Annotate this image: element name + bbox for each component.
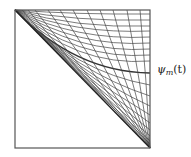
family-b-curve bbox=[48, 10, 150, 148]
family-a-curve bbox=[15, 10, 150, 62]
curve-family-figure bbox=[0, 0, 191, 157]
diagonal-boundary bbox=[15, 10, 150, 148]
psi-symbol: ψ bbox=[157, 63, 166, 76]
psi-m-label: ψm(t) bbox=[157, 63, 186, 77]
psi-argument: (t) bbox=[173, 63, 186, 76]
family-b-curve bbox=[140, 10, 150, 148]
